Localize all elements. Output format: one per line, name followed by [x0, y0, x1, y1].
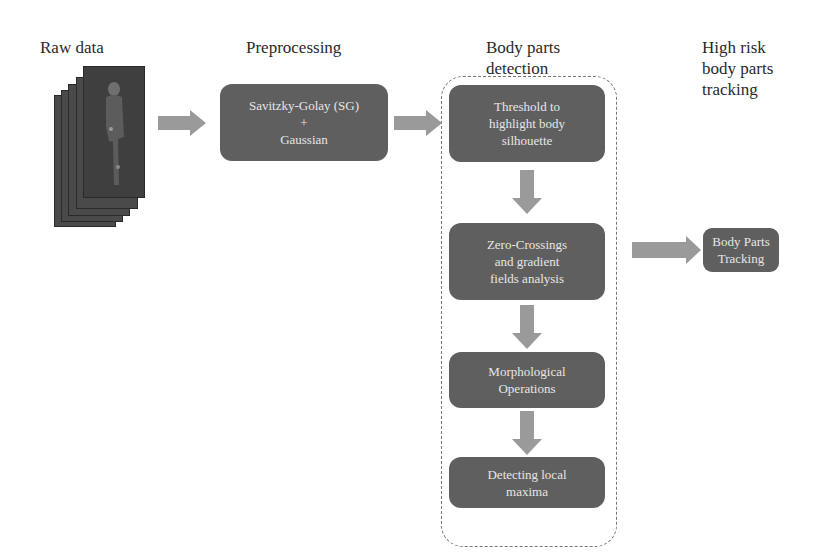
- box-line: Detecting local: [487, 466, 566, 483]
- morphological-step-box: Morphological Operations: [449, 352, 605, 408]
- box-line: highlight body: [489, 115, 565, 132]
- arrow-down-icon: [511, 305, 543, 350]
- preprocessing-title: Preprocessing: [246, 37, 341, 58]
- body-parts-tracking-box: Body Parts Tracking: [703, 228, 779, 272]
- box-line: maxima: [506, 483, 548, 500]
- arrow-right-icon: [632, 236, 702, 264]
- thermal-image-frame: [83, 66, 145, 198]
- box-line: Threshold to: [494, 98, 560, 115]
- arrow-down-icon: [511, 170, 543, 215]
- box-line: Tracking: [718, 250, 764, 267]
- box-line: +: [300, 114, 307, 131]
- preprocessing-box: Savitzky-Golay (SG) + Gaussian: [220, 84, 388, 161]
- title-line: tracking: [702, 79, 773, 100]
- box-line: silhouette: [502, 132, 553, 149]
- box-line: Zero-Crossings: [487, 236, 567, 253]
- tracking-title: High risk body parts tracking: [702, 37, 773, 100]
- zero-crossings-step-box: Zero-Crossings and gradient fields analy…: [449, 223, 605, 300]
- box-line: Body Parts: [712, 233, 769, 250]
- arrow-down-icon: [511, 411, 543, 456]
- arrow-right-icon: [394, 110, 444, 136]
- title-line: body parts: [702, 58, 773, 79]
- threshold-step-box: Threshold to highlight body silhouette: [449, 85, 605, 162]
- raw-data-title: Raw data: [40, 37, 104, 58]
- box-line: Savitzky-Golay (SG): [249, 97, 359, 114]
- box-line: Operations: [498, 380, 555, 397]
- arrow-right-icon: [158, 110, 208, 136]
- box-line: Gaussian: [280, 131, 328, 148]
- title-line: Body parts: [486, 37, 560, 58]
- body-silhouette-icon: [84, 67, 144, 197]
- box-line: Morphological: [488, 363, 565, 380]
- body-parts-detection-title: Body parts detection: [486, 37, 560, 79]
- box-line: fields analysis: [490, 270, 564, 287]
- local-maxima-step-box: Detecting local maxima: [449, 457, 605, 508]
- box-line: and gradient: [495, 253, 560, 270]
- title-line: High risk: [702, 37, 773, 58]
